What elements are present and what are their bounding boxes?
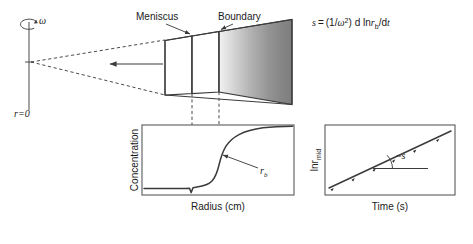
sight-line-lower — [31, 62, 165, 95]
slope-annotation: ~s — [396, 150, 405, 161]
origin-label: r=0 — [14, 108, 30, 119]
eq-numerator: d ln — [355, 17, 371, 28]
omega-label: ω — [39, 15, 46, 26]
boundary-label: Boundary — [218, 11, 261, 22]
rotor-axis-group: ω r=0 — [14, 15, 46, 119]
figure-root: ω r=0 — [0, 0, 473, 244]
diagram-canvas: ω r=0 — [0, 0, 473, 244]
boundary-leader-arrow — [221, 24, 233, 30]
lnrmid-x-axis-label: Time (s) — [372, 201, 408, 212]
eq-s: s — [312, 17, 316, 28]
concentration-x-axis-label: Radius (cm) — [191, 201, 245, 212]
meniscus-label: Meniscus — [136, 11, 178, 22]
sedimentation-equation: s=(1/ω2)d lnrb/dt — [312, 17, 390, 30]
concentration-chart-frame — [142, 125, 294, 195]
eq-equals: = — [318, 17, 324, 28]
meniscus-leader-arrow — [166, 24, 190, 34]
eq-t: t — [387, 17, 390, 28]
sedimentation-equation-group: s=(1/ω2)d lnrb/dt — [312, 17, 390, 30]
rb-annotation-subscript: b — [264, 171, 268, 179]
lnrmid-y-axis-base: lnr — [309, 159, 320, 171]
cell-air-space — [165, 36, 192, 95]
eq-open: (1/ — [326, 17, 338, 28]
origin-label-eq: = — [18, 108, 25, 119]
eq-omega: ω — [337, 17, 344, 28]
lnrmid-y-axis-label: lnrmid — [309, 149, 322, 172]
eq-close: ) — [348, 17, 351, 28]
eq-denominator: /d — [379, 17, 387, 28]
lnrmid-chart: ~s lnrmid Time (s) — [309, 125, 455, 212]
centrifuge-cell-group — [165, 20, 292, 105]
origin-label-value: 0 — [25, 108, 30, 119]
sight-line-upper — [31, 40, 165, 62]
cell-boundary-gradient-region — [219, 20, 292, 105]
lnrmid-y-axis-subscript: mid — [315, 149, 322, 160]
radial-sight-lines — [31, 40, 165, 95]
concentration-y-axis-label: Concentration — [129, 129, 140, 191]
concentration-chart: rb Concentration Radius (cm) — [129, 125, 294, 212]
cell-plateau-region — [192, 32, 219, 94]
rotation-arrow-arc-back — [20, 24, 34, 29]
